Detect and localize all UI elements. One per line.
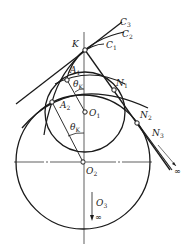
- label-o1: O1: [89, 108, 100, 119]
- label-c2: C2: [122, 29, 133, 40]
- label-theta-lower: θK: [70, 122, 80, 133]
- label-k: K: [71, 39, 80, 49]
- point-n2: [135, 121, 139, 125]
- tangent-line: [16, 22, 122, 104]
- point-o1: [83, 110, 87, 114]
- infinity-n3: ∞: [174, 167, 181, 176]
- infinity-o3: ∞: [95, 213, 102, 222]
- label-a1: A1: [69, 65, 80, 76]
- involute-diagram: K C3 C2 C1 A1 A2 θK θK O1 O2 N1 N2 N3 O3…: [0, 0, 196, 252]
- arrow-o3-head: [90, 215, 94, 221]
- label-n3: N3: [151, 128, 164, 139]
- label-o3: O3: [96, 198, 107, 209]
- label-c3: C3: [120, 17, 131, 28]
- normal-line: [85, 50, 170, 170]
- angle-arc-lower: [68, 133, 84, 136]
- point-a2: [50, 100, 54, 104]
- arrow-n3-head: [172, 162, 176, 166]
- label-n1: N1: [115, 78, 128, 89]
- point-k: [83, 48, 87, 52]
- point-o2: [81, 160, 85, 164]
- label-theta-upper: θK: [73, 79, 83, 90]
- point-a1: [65, 78, 69, 82]
- point-n1: [112, 88, 116, 92]
- label-a2: A2: [59, 100, 71, 111]
- label-n2: N2: [139, 110, 152, 121]
- label-c1: C1: [106, 40, 117, 51]
- label-o2: O2: [86, 166, 97, 177]
